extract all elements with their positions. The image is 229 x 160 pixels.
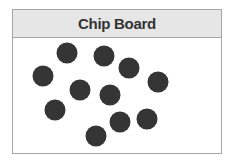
chip[interactable] — [119, 58, 140, 79]
chip[interactable] — [57, 43, 78, 64]
chip[interactable] — [70, 80, 91, 101]
chip[interactable] — [110, 112, 131, 133]
chip[interactable] — [33, 66, 54, 87]
chip[interactable] — [45, 100, 66, 121]
chip[interactable] — [100, 85, 121, 106]
chip-board: Chip Board — [12, 9, 222, 154]
chip[interactable] — [148, 72, 169, 93]
chip[interactable] — [137, 109, 158, 130]
chip[interactable] — [86, 126, 107, 147]
board-header: Chip Board — [13, 10, 221, 38]
board-title: Chip Board — [78, 15, 156, 32]
chip[interactable] — [94, 46, 115, 67]
